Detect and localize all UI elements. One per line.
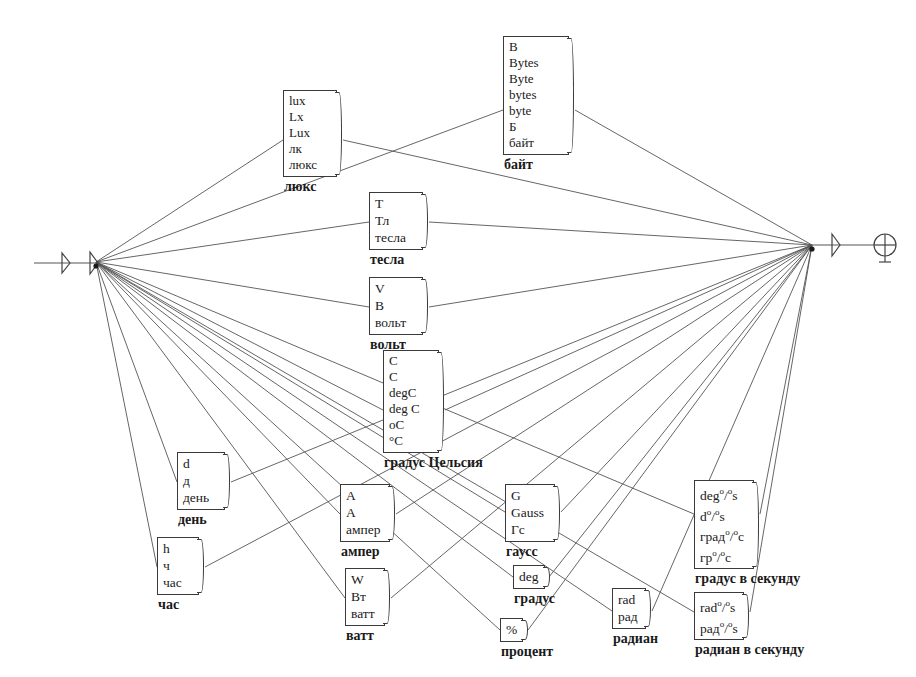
alias-text: T (375, 195, 417, 212)
alias-text: Тл (375, 212, 417, 229)
alias-text: Lx (289, 109, 331, 125)
unit-node-byte[interactable]: BBytesBytebytesbyteБбайтбайт (503, 36, 569, 173)
alias-text: лк (289, 141, 331, 157)
unit-node-gauss[interactable]: GGaussГсгаусс (505, 484, 555, 560)
alias-text: % (506, 621, 517, 638)
unit-caption: градус (513, 590, 555, 607)
alias-text: грo/oс (700, 545, 748, 566)
alias-text: д (183, 472, 219, 489)
alias-text: час (163, 574, 193, 591)
unit-node-degree[interactable]: degградус (513, 565, 555, 607)
unit-node-degree-per-second[interactable]: dego/osdo/osградo/oсгрo/oсградус в секун… (694, 480, 800, 587)
edge-right-day (231, 245, 812, 482)
alias-text: рад (618, 608, 640, 625)
alias-text: С (389, 369, 433, 385)
unit-caption: люкс (283, 178, 337, 195)
edge-left-lux (96, 140, 283, 262)
alias-text: V (375, 280, 417, 297)
alias-text: °C (389, 433, 433, 449)
alias-text: d (183, 455, 219, 472)
edge-right-celsius (445, 245, 812, 410)
unit-caption: день (177, 511, 225, 528)
alias-text: радo/os (700, 616, 738, 637)
alias-text: deg (519, 568, 539, 585)
unit-alias-box[interactable]: % (500, 618, 523, 642)
alias-text: C (389, 353, 433, 369)
alias-text: тесла (375, 229, 417, 246)
unit-node-day[interactable]: dдденьдень (177, 452, 225, 528)
unit-alias-box[interactable]: dддень (177, 452, 225, 510)
unit-alias-box[interactable]: BBytesBytebytesbyteБбайт (503, 36, 569, 155)
unit-alias-box[interactable]: CСdegCdeg CoC°C (383, 350, 439, 453)
unit-alias-box[interactable]: WВтватт (345, 568, 385, 626)
alias-text: degC (389, 385, 433, 401)
unit-alias-box[interactable]: rado/osрадo/os (694, 592, 744, 640)
alias-text: люкс (289, 157, 331, 173)
alias-text: G (511, 487, 549, 504)
unit-node-volt[interactable]: VВвольтвольт (369, 277, 423, 353)
unit-caption: ватт (345, 627, 385, 644)
diagram-canvas: luxLxLuxлклюкслюксBBytesBytebytesbyteБба… (0, 0, 916, 677)
alias-text: oC (389, 417, 433, 433)
alias-text: byte (509, 103, 563, 119)
unit-caption: тесла (369, 251, 423, 268)
alias-text: градo/oс (700, 524, 748, 545)
left-hub (92, 258, 102, 276)
alias-text: h (163, 540, 193, 557)
edge-left-volt (96, 262, 369, 307)
unit-caption: градус Цельсия (383, 454, 483, 471)
alias-text: ч (163, 557, 193, 574)
alias-text: B (509, 39, 563, 55)
alias-text: deg C (389, 401, 433, 417)
unit-caption: час (157, 596, 199, 613)
unit-caption: ампер (340, 543, 390, 560)
alias-text: Lux (289, 125, 331, 141)
edge-right-byte (575, 110, 812, 245)
unit-alias-box[interactable]: dego/osdo/osградo/oсгрo/oс (694, 480, 754, 569)
unit-caption: гаусс (505, 543, 555, 560)
unit-alias-box[interactable]: radрад (612, 588, 646, 629)
alias-text: В (375, 297, 417, 314)
edge-right-degree-per-second (760, 245, 812, 514)
edge-right-gauss (561, 245, 812, 512)
unit-node-hour[interactable]: hччасчас (157, 537, 199, 613)
alias-text: rado/os (700, 595, 738, 616)
edge-left-tesla (96, 222, 369, 262)
unit-caption: процент (500, 643, 553, 660)
unit-node-radian-per-second[interactable]: rado/osрадo/osрадиан в секунду (694, 592, 804, 658)
unit-node-watt[interactable]: WВтваттватт (345, 568, 385, 644)
alias-text: W (351, 571, 379, 588)
unit-alias-box[interactable]: AАампер (340, 484, 390, 542)
unit-node-radian[interactable]: radрадрадиан (612, 588, 658, 647)
alias-text: вольт (375, 314, 417, 331)
unit-alias-box[interactable]: luxLxLuxлклюкс (283, 90, 337, 177)
alias-text: Bytes (509, 55, 563, 71)
alias-text: ампер (346, 521, 384, 538)
alias-text: dego/os (700, 483, 748, 504)
unit-alias-box[interactable]: TТлтесла (369, 192, 423, 250)
unit-node-percent[interactable]: %процент (500, 618, 553, 660)
unit-alias-box[interactable]: GGaussГс (505, 484, 555, 542)
unit-alias-box[interactable]: VВвольт (369, 277, 423, 335)
unit-node-tesla[interactable]: TТлтеслатесла (369, 192, 423, 268)
unit-node-lux[interactable]: luxLxLuxлклюкслюкс (283, 90, 337, 195)
alias-text: ватт (351, 605, 379, 622)
alias-text: A (346, 487, 384, 504)
edge-left-celsius (96, 262, 383, 410)
alias-text: do/os (700, 504, 748, 525)
unit-node-celsius[interactable]: CСdegCdeg CoC°Cградус Цельсия (383, 350, 483, 471)
unit-node-ampere[interactable]: AАамперампер (340, 484, 390, 560)
unit-caption: радиан (612, 630, 658, 647)
right-terminal (812, 228, 912, 278)
alias-text: Gauss (511, 504, 549, 521)
edge-left-hour (96, 262, 157, 567)
unit-alias-box[interactable]: hччас (157, 537, 199, 595)
unit-alias-box[interactable]: deg (513, 565, 545, 589)
edge-left-watt (96, 262, 345, 598)
alias-text: bytes (509, 87, 563, 103)
alias-text: Гс (511, 521, 549, 538)
unit-caption: радиан в секунду (694, 641, 804, 658)
edge-left-day (96, 262, 177, 482)
edge-right-tesla (429, 222, 812, 245)
alias-text: день (183, 489, 219, 506)
